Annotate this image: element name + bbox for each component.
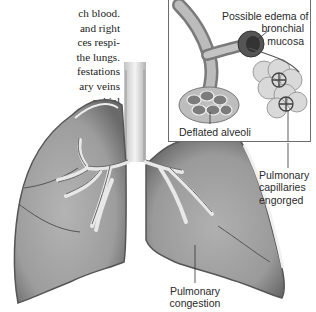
label-deflated-alveoli: Deflated alveoli (179, 126, 251, 138)
label-line: congestion (163, 297, 227, 309)
deflated-alveoli (179, 87, 239, 123)
label-line: capillaries (259, 181, 309, 193)
engorged-capillaries-alveoli (249, 48, 307, 118)
label-line: mucosa (222, 35, 304, 47)
label-line: Possible edema of (222, 10, 304, 22)
label-pulmonary-congestion: Pulmonary congestion (163, 285, 227, 310)
right-lung (146, 140, 284, 298)
label-capillaries: Pulmonary capillaries engorged (259, 169, 309, 206)
label-line: engorged (259, 194, 309, 206)
trachea (124, 62, 146, 162)
label-line: Pulmonary (259, 169, 309, 181)
label-line: Pulmonary (163, 285, 227, 297)
label-line: bronchial (222, 22, 304, 34)
label-edema: Possible edema of bronchial mucosa (222, 10, 304, 47)
left-lung (14, 100, 128, 303)
